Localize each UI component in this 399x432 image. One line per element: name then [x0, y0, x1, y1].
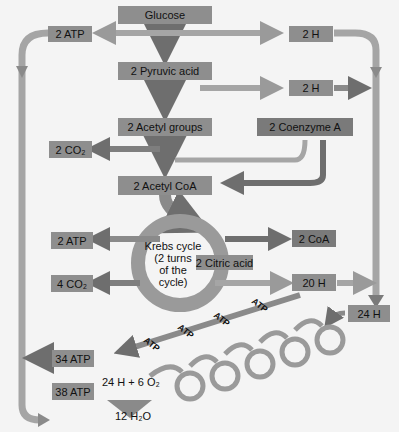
node-h-glycolysis: 2 H: [289, 26, 333, 42]
atp-label: 34 ATP: [55, 353, 90, 365]
acetyl-groups-label: 2 Acetyl groups: [127, 121, 202, 133]
node-atp-glycolysis: 2 ATP: [48, 26, 92, 42]
node-h-20: 20 H: [292, 274, 336, 291]
acetyl-coa-label: 2 Acetyl CoA: [134, 180, 197, 192]
krebs-line: cycle): [140, 276, 206, 288]
atp-label: 2 ATP: [55, 28, 84, 40]
node-coenzyme-a: 2 Coenzyme A: [257, 118, 353, 136]
coenzyme-a-label: 2 Coenzyme A: [269, 121, 341, 133]
node-co2-krebs: 4 CO₂: [51, 275, 93, 292]
krebs-line: Krebs cycle: [140, 240, 206, 252]
h-label: 2 H: [302, 82, 319, 94]
co2-label: 4 CO₂: [57, 278, 87, 290]
pyruvic-label: 2 Pyruvic acid: [131, 65, 199, 77]
node-pyruvic-acid: 2 Pyruvic acid: [118, 62, 212, 80]
node-atp-krebs: 2 ATP: [51, 232, 93, 249]
node-h-pyruvate: 2 H: [289, 80, 333, 96]
coa-label: 2 CoA: [299, 233, 330, 245]
node-atp-34: 34 ATP: [52, 350, 94, 367]
node-atp-38: 38 ATP: [52, 383, 94, 400]
node-co2-pyruvate: 2 CO₂: [49, 141, 92, 158]
krebs-line: (2 turns: [140, 252, 206, 264]
co2-label: 2 CO₂: [56, 144, 86, 156]
node-acetyl-coa: 2 Acetyl CoA: [118, 176, 212, 195]
node-coa-out: 2 CoA: [292, 230, 336, 247]
h-label: 24 H: [357, 308, 380, 320]
node-h-24: 24 H: [348, 305, 390, 322]
atp-label: 38 ATP: [55, 386, 90, 398]
equation-label: 24 H + 6 O₂: [102, 376, 160, 388]
water-product-label: 12 H₂O: [115, 410, 151, 422]
node-glucose: Glucose: [118, 6, 212, 24]
node-acetyl-groups: 2 Acetyl groups: [118, 118, 212, 136]
krebs-cycle-label: Krebs cycle (2 turns of the cycle): [140, 240, 206, 288]
h-label: 2 H: [302, 28, 319, 40]
glucose-label: Glucose: [145, 9, 185, 21]
h-label: 20 H: [302, 277, 325, 289]
atp-label: 2 ATP: [57, 235, 86, 247]
krebs-line: of the: [140, 264, 206, 276]
